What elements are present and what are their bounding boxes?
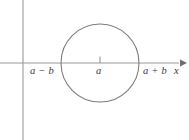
label-x-axis: x [174,66,179,77]
figure-canvas: a − b a a + b x [0,0,189,140]
label-right-intersection: a + b [143,66,167,77]
x-axis-arrow-icon [180,60,187,67]
label-left-intersection: a − b [30,66,54,77]
label-center-point: a [96,66,101,77]
